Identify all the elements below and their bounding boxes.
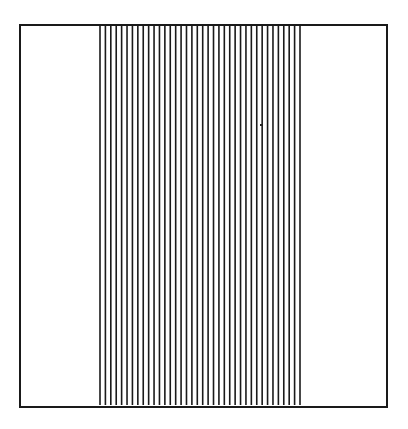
dot-artifact <box>260 124 262 126</box>
vertical-line-grating <box>0 0 408 429</box>
